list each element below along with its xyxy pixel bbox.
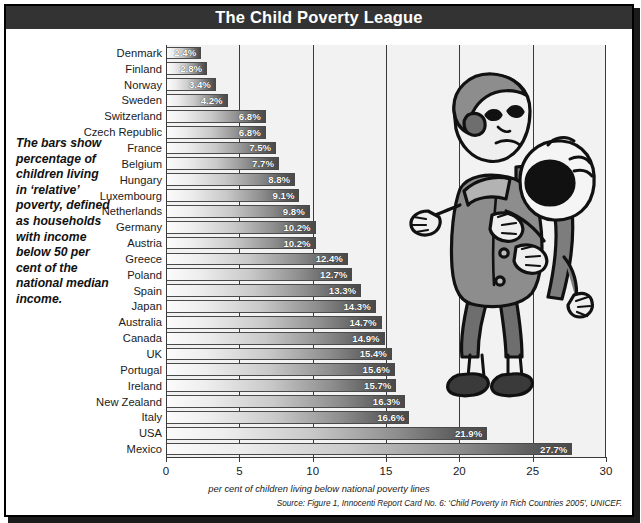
bar-value-label: 16.6% (377, 412, 408, 423)
chart-body: The bars show percentage of children liv… (6, 31, 632, 515)
category-label-greece: Greece (66, 253, 162, 265)
bar-row: 14.9% (166, 332, 605, 345)
bar-value-label: 12.7% (320, 269, 351, 280)
bar-row: 2.8% (166, 62, 605, 75)
category-label-netherlands: Netherlands (66, 205, 162, 217)
bar-value-label: 9.1% (273, 190, 299, 201)
bar-row: 2.4% (166, 47, 605, 60)
bar-denmark: 2.4% (166, 47, 201, 60)
category-label-japan: Japan (66, 300, 162, 312)
x-tick-label-0: 0 (163, 465, 169, 477)
bar-value-label: 14.9% (352, 333, 383, 344)
bar-poland: 12.7% (166, 268, 352, 281)
x-tick-25 (533, 457, 534, 462)
bar-value-label: 3.4% (189, 79, 215, 90)
bar-finland: 2.8% (166, 62, 207, 75)
category-label-austria: Austria (66, 237, 162, 249)
bar-germany: 10.2% (166, 221, 316, 234)
category-label-hungary: Hungary (66, 174, 162, 186)
bar-row: 8.8% (166, 173, 605, 186)
category-label-luxembourg: Luxembourg (66, 190, 162, 202)
bar-value-label: 15.4% (360, 348, 391, 359)
bar-value-label: 6.8% (239, 127, 265, 138)
bar-hungary: 8.8% (166, 173, 295, 186)
category-label-germany: Germany (66, 221, 162, 233)
category-label-poland: Poland (66, 269, 162, 281)
x-tick-label-20: 20 (453, 465, 466, 477)
x-tick-label-30: 30 (600, 465, 613, 477)
bar-row: 3.4% (166, 78, 605, 91)
bar-value-label: 4.2% (201, 95, 227, 106)
bar-row: 12.7% (166, 268, 605, 281)
bar-value-label: 7.7% (252, 158, 278, 169)
bar-row: 13.3% (166, 284, 605, 297)
x-tick-label-25: 25 (526, 465, 539, 477)
bar-row: 9.8% (166, 205, 605, 218)
bar-mexico: 27.7% (166, 443, 572, 456)
bar-greece: 12.4% (166, 253, 348, 266)
bar-uk: 15.4% (166, 348, 392, 361)
bar-row: 14.3% (166, 300, 605, 313)
plot-wrapper: DenmarkFinlandNorwaySwedenSwitzerlandCze… (6, 31, 632, 515)
category-label-mexico: Mexico (66, 443, 162, 455)
bar-norway: 3.4% (166, 78, 216, 91)
bar-value-label: 21.9% (455, 428, 486, 439)
x-tick-5 (239, 457, 240, 462)
bar-switzerland: 6.8% (166, 110, 266, 123)
bar-value-label: 16.3% (373, 396, 404, 407)
category-label-denmark: Denmark (66, 47, 162, 59)
bar-value-label: 12.4% (316, 253, 347, 264)
bar-sweden: 4.2% (166, 94, 228, 107)
bar-row: 6.8% (166, 110, 605, 123)
category-label-belgium: Belgium (66, 158, 162, 170)
poverty-league-chart-page: The Child Poverty League The bars show p… (0, 0, 641, 523)
bar-france: 7.5% (166, 142, 276, 155)
bar-row: 7.7% (166, 157, 605, 170)
bar-row: 15.7% (166, 379, 605, 392)
bar-value-label: 2.4% (174, 47, 200, 58)
bar-row: 9.1% (166, 189, 605, 202)
page-title: The Child Poverty League (215, 8, 422, 27)
bar-japan: 14.3% (166, 300, 376, 313)
bar-ireland: 15.7% (166, 379, 396, 392)
bar-row: 7.5% (166, 142, 605, 155)
bar-portugal: 15.6% (166, 363, 395, 376)
x-tick-15 (386, 457, 387, 462)
category-label-spain: Spain (66, 285, 162, 297)
category-label-ireland: Ireland (66, 380, 162, 392)
bar-value-label: 2.8% (180, 63, 206, 74)
category-label-czech-republic: Czech Republic (66, 126, 162, 138)
bar-spain: 13.3% (166, 284, 361, 297)
category-label-australia: Australia (66, 316, 162, 328)
bar-value-label: 13.3% (329, 285, 360, 296)
bar-row: 16.6% (166, 411, 605, 424)
bar-row: 10.2% (166, 237, 605, 250)
bar-value-label: 15.7% (364, 380, 395, 391)
bar-usa: 21.9% (166, 427, 487, 440)
source-note: Source: Figure 1, Innocenti Report Card … (6, 499, 622, 508)
category-label-norway: Norway (66, 79, 162, 91)
category-label-usa: USA (66, 427, 162, 439)
bar-row: 15.6% (166, 363, 605, 376)
bar-row: 15.4% (166, 348, 605, 361)
bar-row: 12.4% (166, 253, 605, 266)
bar-row: 14.7% (166, 316, 605, 329)
bar-value-label: 14.7% (349, 317, 380, 328)
category-label-portugal: Portugal (66, 364, 162, 376)
x-axis-title: per cent of children living below nation… (6, 483, 632, 494)
bar-row: 16.3% (166, 395, 605, 408)
x-tick-label-10: 10 (306, 465, 319, 477)
bar-luxembourg: 9.1% (166, 189, 299, 202)
bar-value-label: 14.3% (344, 301, 375, 312)
bar-netherlands: 9.8% (166, 205, 310, 218)
bar-new-zealand: 16.3% (166, 395, 405, 408)
bar-row: 21.9% (166, 427, 605, 440)
category-label-sweden: Sweden (66, 94, 162, 106)
x-tick-20 (459, 457, 460, 462)
bar-value-label: 9.8% (283, 206, 309, 217)
bar-czech-republic: 6.8% (166, 126, 266, 139)
x-tick-0 (166, 457, 167, 462)
category-label-canada: Canada (66, 332, 162, 344)
bar-value-label: 8.8% (268, 174, 294, 185)
category-label-finland: Finland (66, 63, 162, 75)
